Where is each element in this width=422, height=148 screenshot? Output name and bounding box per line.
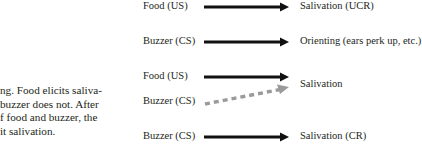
solid-arrow-icon: [204, 3, 289, 12]
arrows-layer: [0, 0, 422, 148]
dashed-arrow-icon: [205, 85, 289, 105]
solid-arrow-icon: [204, 38, 289, 47]
solid-arrow-icon: [204, 133, 289, 142]
solid-arrow-icon: [204, 73, 289, 82]
